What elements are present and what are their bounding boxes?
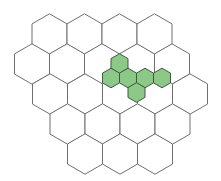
large-hex-grid <box>15 14 208 174</box>
green-hex-cell <box>103 68 120 88</box>
hex-grid-diagram <box>0 0 221 181</box>
green-hex-cell <box>154 68 171 88</box>
green-hex-cell <box>128 83 145 103</box>
